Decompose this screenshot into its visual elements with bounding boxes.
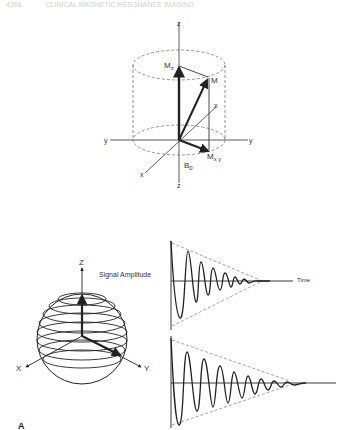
y-left-label: y (104, 137, 108, 145)
x-front-label: x (140, 171, 144, 178)
sphere-x-label: X (16, 364, 22, 373)
figure-svg: z z y y x x Mz M Mx y B0 (0, 0, 344, 430)
z-bottom-label: z (177, 182, 181, 189)
time-label: Time (297, 277, 311, 283)
y-right-label: y (249, 137, 253, 145)
sphere-y-label: Y (144, 364, 150, 373)
fid-upper-trace (171, 241, 270, 318)
panel-letter: A (18, 421, 25, 430)
m-vector (179, 80, 207, 140)
fid-lower-trace (171, 338, 306, 425)
mz-label: Mz (164, 61, 174, 71)
x-back-label: x (214, 102, 218, 109)
m-label: M (211, 76, 218, 85)
magnetization-cylinder-diagram: z z y y x x Mz M Mx y B0 (104, 20, 253, 189)
z-top-label: z (177, 20, 181, 27)
mxy-label: Mx y (207, 152, 221, 162)
b0-label: B0 (184, 161, 193, 171)
sphere-z-label: Z (79, 258, 84, 267)
signal-amplitude-label: Signal Amplitude (99, 271, 151, 279)
mxy-vector (179, 140, 208, 151)
fid-signal-diagram: Signal Amplitude Time (99, 241, 336, 428)
figure-page: 4266 CLINICAL MAGNETIC RESONANCE IMAGING (0, 0, 344, 430)
sphere-x-axis (26, 336, 82, 367)
